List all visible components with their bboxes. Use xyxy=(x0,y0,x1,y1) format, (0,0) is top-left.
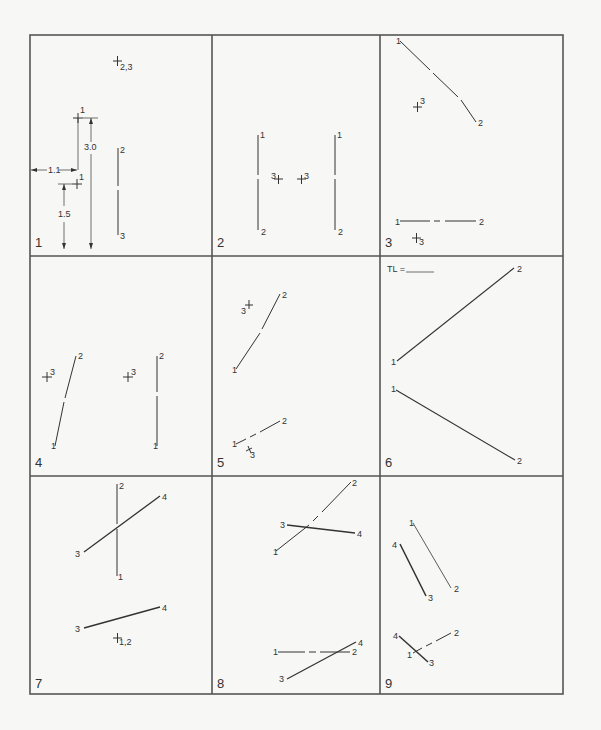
svg-text:3.0: 3.0 xyxy=(84,142,97,152)
problem-1 xyxy=(31,56,122,249)
svg-text:2,3: 2,3 xyxy=(120,62,133,72)
svg-text:3: 3 xyxy=(304,171,309,181)
svg-text:1: 1 xyxy=(232,439,237,449)
svg-text:4: 4 xyxy=(357,529,362,539)
problem-4 xyxy=(42,356,157,446)
svg-text:2: 2 xyxy=(352,478,357,488)
svg-text:2: 2 xyxy=(78,351,83,361)
svg-text:1: 1 xyxy=(118,572,123,582)
problem-7 xyxy=(84,484,160,643)
svg-text:3: 3 xyxy=(131,367,136,377)
svg-text:2: 2 xyxy=(454,628,459,638)
svg-text:2: 2 xyxy=(454,584,459,594)
problem-number-6: 6 xyxy=(385,455,392,470)
svg-text:4: 4 xyxy=(392,540,397,550)
svg-text:4: 4 xyxy=(162,603,167,613)
svg-text:4: 4 xyxy=(358,638,363,648)
svg-text:2: 2 xyxy=(119,481,124,491)
worksheet-grid xyxy=(30,35,563,694)
svg-text:1: 1 xyxy=(396,36,401,46)
problem-3-labels: 1 2 3 1 2 3 xyxy=(395,36,484,247)
svg-text:1: 1 xyxy=(273,647,278,657)
svg-text:2: 2 xyxy=(478,118,483,128)
svg-text:1: 1 xyxy=(153,441,158,451)
problem-number-4: 4 xyxy=(35,455,42,470)
problem-8 xyxy=(276,482,356,679)
svg-text:3: 3 xyxy=(279,674,284,684)
svg-text:1: 1 xyxy=(391,384,396,394)
svg-text:2: 2 xyxy=(479,217,484,227)
problem-1-labels: 1 2,3 1 2 3 3.0 1.1 1.5 xyxy=(48,62,133,241)
svg-text:3: 3 xyxy=(75,549,80,559)
svg-text:3: 3 xyxy=(75,624,80,634)
svg-text:3: 3 xyxy=(280,520,285,530)
svg-text:1: 1 xyxy=(407,650,412,660)
svg-text:3: 3 xyxy=(250,450,255,460)
problem-number-2: 2 xyxy=(217,235,224,250)
problem-8-labels: 2 3 4 1 4 1 2 3 xyxy=(273,478,363,684)
problem-number-3: 3 xyxy=(385,235,392,250)
svg-text:2: 2 xyxy=(282,290,287,300)
svg-text:1: 1 xyxy=(409,518,414,528)
svg-text:2: 2 xyxy=(517,456,522,466)
svg-text:1: 1 xyxy=(273,547,278,557)
svg-text:3: 3 xyxy=(50,367,55,377)
svg-text:3: 3 xyxy=(429,658,434,668)
problem-6-labels: TL = 2 1 1 2 xyxy=(387,264,522,466)
svg-text:3: 3 xyxy=(420,96,425,106)
problem-9-labels: 1 4 2 3 2 4 1 3 xyxy=(392,518,459,668)
svg-text:3: 3 xyxy=(419,237,424,247)
problem-number-8: 8 xyxy=(217,676,224,691)
svg-text:3: 3 xyxy=(120,231,125,241)
problem-2 xyxy=(258,135,335,230)
drawing-worksheet: 1 2 3 4 5 6 7 8 9 1 2,3 1 2 3 3.0 xyxy=(0,0,601,730)
svg-text:2: 2 xyxy=(159,351,164,361)
problem-5 xyxy=(236,294,280,453)
problem-number-9: 9 xyxy=(385,676,392,691)
point-marker xyxy=(245,300,253,309)
problem-9 xyxy=(399,523,451,662)
svg-text:1.5: 1.5 xyxy=(58,209,71,219)
svg-text:3: 3 xyxy=(271,171,276,181)
svg-text:2: 2 xyxy=(338,227,343,237)
problem-7-labels: 2 4 3 1 4 3 1,2 xyxy=(75,481,167,647)
problem-number-7: 7 xyxy=(35,676,42,691)
svg-text:1: 1 xyxy=(80,105,85,115)
true-length-label: TL = xyxy=(387,264,405,274)
svg-text:1: 1 xyxy=(51,441,56,451)
svg-text:1: 1 xyxy=(232,365,237,375)
problem-5-labels: 2 3 1 2 1 3 xyxy=(232,290,287,460)
svg-text:1: 1 xyxy=(79,172,84,182)
problem-3 xyxy=(400,41,476,243)
problem-numbers: 1 2 3 4 5 6 7 8 9 xyxy=(35,235,392,691)
svg-text:1: 1 xyxy=(395,217,400,227)
problem-number-5: 5 xyxy=(217,455,224,470)
svg-text:2: 2 xyxy=(261,227,266,237)
problem-6 xyxy=(396,268,515,460)
svg-text:1: 1 xyxy=(337,130,342,140)
svg-text:3: 3 xyxy=(428,593,433,603)
svg-text:3: 3 xyxy=(241,306,246,316)
svg-text:1: 1 xyxy=(260,130,265,140)
problem-4-labels: 2 3 1 3 2 1 xyxy=(50,351,164,451)
problem-number-1: 1 xyxy=(35,235,42,250)
svg-text:2: 2 xyxy=(352,647,357,657)
svg-text:2: 2 xyxy=(282,416,287,426)
svg-text:2: 2 xyxy=(517,264,522,274)
svg-text:2: 2 xyxy=(120,145,125,155)
svg-text:1,2: 1,2 xyxy=(119,637,132,647)
svg-text:1: 1 xyxy=(391,357,396,367)
svg-text:1.1: 1.1 xyxy=(48,165,61,175)
svg-text:4: 4 xyxy=(162,492,167,502)
svg-text:4: 4 xyxy=(393,631,398,641)
